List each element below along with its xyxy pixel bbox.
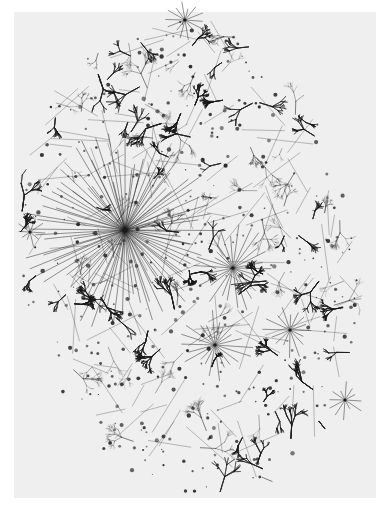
network-node: [264, 207, 266, 209]
network-node: [171, 90, 172, 91]
network-node: [108, 91, 111, 94]
network-node: [207, 347, 211, 351]
network-node: [226, 275, 228, 277]
network-node: [261, 290, 262, 291]
network-node: [277, 391, 279, 393]
network-node: [177, 54, 179, 56]
network-node: [61, 390, 65, 394]
network-node: [287, 340, 288, 341]
network-edges: [22, 25, 363, 472]
network-node: [86, 263, 90, 267]
network-node: [115, 405, 119, 409]
network-node: [218, 304, 222, 308]
network-node: [136, 376, 140, 380]
network-node: [209, 113, 212, 116]
network-node: [111, 371, 112, 372]
network-node: [80, 315, 82, 317]
network-node: [356, 279, 358, 281]
network-node: [150, 261, 152, 263]
network-node: [252, 477, 253, 478]
network-node: [101, 381, 103, 383]
network-node: [216, 464, 219, 467]
network-node: [314, 351, 317, 354]
network-node: [96, 352, 99, 355]
network-node: [196, 297, 199, 300]
network-node: [354, 298, 356, 300]
network-node: [223, 394, 226, 397]
network-node: [146, 308, 147, 309]
network-node: [36, 210, 40, 214]
network-node: [106, 83, 110, 87]
network-node: [162, 366, 165, 369]
network-node: [245, 62, 247, 64]
network-node: [102, 447, 105, 450]
network-node: [138, 314, 141, 317]
network-node: [340, 308, 341, 309]
network-node: [214, 454, 217, 457]
network-node: [72, 207, 73, 208]
network-node: [152, 185, 154, 187]
network-node: [120, 382, 124, 386]
network-node: [299, 252, 301, 254]
network-node: [28, 182, 32, 186]
network-node: [50, 301, 53, 304]
network-node: [236, 234, 237, 235]
network-node: [46, 183, 49, 186]
network-node: [88, 174, 90, 176]
network-node: [147, 175, 149, 177]
network-node: [282, 104, 285, 107]
network-node: [192, 470, 194, 472]
network-node: [227, 60, 230, 63]
network-node: [54, 232, 58, 236]
network-node: [45, 143, 49, 147]
network-node: [325, 239, 327, 241]
network-node: [232, 36, 235, 39]
network-node: [87, 58, 89, 60]
network-node: [187, 413, 191, 417]
network-node: [321, 386, 322, 387]
network-node: [183, 53, 186, 56]
network-node: [178, 305, 181, 308]
network-node: [134, 284, 137, 287]
network-node: [115, 152, 117, 154]
network-node: [169, 61, 172, 64]
network-node: [255, 401, 257, 403]
network-node: [353, 322, 355, 324]
network-node: [141, 429, 143, 431]
network-node: [211, 131, 214, 134]
network-node: [162, 435, 166, 439]
network-node: [304, 283, 307, 286]
network-node: [350, 341, 353, 344]
network-node: [76, 240, 80, 244]
network-node: [169, 329, 173, 333]
network-node: [28, 304, 30, 306]
network-node: [175, 233, 177, 235]
network-node: [78, 105, 82, 109]
network-node: [181, 310, 185, 314]
network-node: [162, 451, 164, 453]
network-node: [150, 103, 153, 106]
network-node: [155, 109, 159, 113]
network-node: [95, 146, 98, 149]
network-node: [90, 352, 93, 355]
network-node: [111, 284, 113, 286]
network-node: [145, 431, 147, 433]
network-node: [268, 386, 272, 390]
network-node: [199, 174, 202, 177]
network-node: [148, 103, 149, 104]
network-node: [35, 216, 36, 217]
network-node: [312, 210, 314, 212]
network-node: [209, 435, 213, 439]
network-node: [76, 222, 80, 226]
network-node: [253, 387, 255, 389]
network-node: [73, 287, 74, 288]
network-node: [290, 377, 293, 380]
network-node: [138, 51, 142, 55]
network-node: [98, 245, 101, 248]
network-node: [336, 236, 339, 239]
network-node: [146, 446, 148, 448]
network-node: [68, 346, 72, 350]
network-node: [109, 162, 111, 164]
network-node: [125, 193, 127, 195]
network-node: [258, 476, 261, 479]
